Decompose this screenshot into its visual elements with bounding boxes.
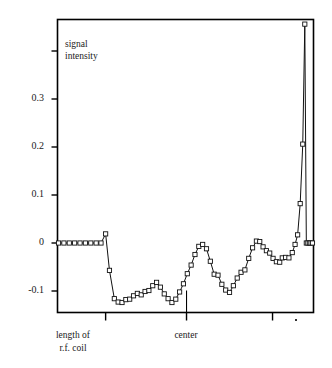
data-point-marker — [296, 233, 300, 237]
data-point-marker — [287, 256, 291, 260]
data-point-marker — [83, 241, 87, 245]
y-tick-label-0.3: 0.3 — [14, 93, 44, 103]
data-point-marker — [216, 273, 220, 277]
data-point-marker — [298, 202, 302, 206]
data-point-marker — [99, 241, 103, 245]
data-point-marker — [250, 246, 254, 250]
data-point-marker — [204, 247, 208, 251]
data-point-marker — [154, 280, 158, 284]
data-point-marker — [162, 292, 166, 296]
data-point-marker — [243, 268, 247, 272]
data-point-marker — [181, 282, 185, 286]
data-point-marker — [158, 285, 162, 289]
data-point-marker — [293, 242, 297, 246]
data-point-marker — [247, 256, 251, 260]
data-point-marker — [227, 290, 231, 294]
data-point-marker — [178, 290, 182, 294]
x-axis-ticks — [106, 291, 273, 321]
x-label-center: center — [156, 330, 216, 342]
data-point-marker — [235, 276, 239, 280]
data-point-marker — [62, 241, 66, 245]
chart-plot-svg — [0, 0, 332, 368]
data-point-marker — [94, 241, 98, 245]
x-axis-dot-marker — [295, 319, 297, 321]
data-point-marker — [208, 259, 212, 263]
y-tick-label-0.2: 0.2 — [14, 141, 44, 151]
y-axis-ticks — [52, 51, 58, 291]
y-tick-label-0.1: 0.1 — [14, 189, 44, 199]
x-label-rf-coil-line-2: r.f. coil — [40, 343, 106, 355]
y-tick-label-minus-0.1: -0.1 — [8, 285, 44, 295]
data-point-marker — [56, 241, 60, 245]
plot-frame — [58, 20, 314, 313]
data-point-marker — [310, 241, 314, 245]
data-point-marker — [303, 22, 307, 26]
data-point-marker — [147, 288, 151, 292]
data-point-marker — [73, 241, 77, 245]
chart-figure: 0.3 0.2 0.1 0 -0.1 signal intensity leng… — [0, 0, 332, 368]
data-line-main — [59, 24, 305, 302]
data-point-marker — [268, 251, 272, 255]
data-point-marker — [78, 241, 82, 245]
data-point-marker — [189, 263, 193, 267]
data-point-marker — [89, 241, 93, 245]
data-point-marker — [104, 232, 108, 236]
x-label-rf-coil-line-1: length of — [40, 330, 106, 342]
data-point-marker — [220, 282, 224, 286]
data-point-marker — [193, 252, 197, 256]
data-series-markers — [56, 22, 314, 305]
data-point-marker — [201, 242, 205, 246]
data-point-marker — [278, 260, 282, 264]
y-tick-label-0: 0 — [14, 237, 44, 247]
data-point-marker — [185, 272, 189, 276]
data-line-spike-drop — [305, 24, 307, 243]
data-point-marker — [301, 142, 305, 146]
data-point-marker — [174, 297, 178, 301]
data-point-marker — [67, 241, 71, 245]
y-axis-title-line-1: signal — [65, 39, 88, 51]
y-axis-title-line-2: intensity — [65, 51, 98, 63]
data-point-marker — [107, 268, 111, 272]
data-point-marker — [290, 251, 294, 255]
data-point-marker — [231, 284, 235, 288]
data-point-marker — [258, 239, 262, 243]
